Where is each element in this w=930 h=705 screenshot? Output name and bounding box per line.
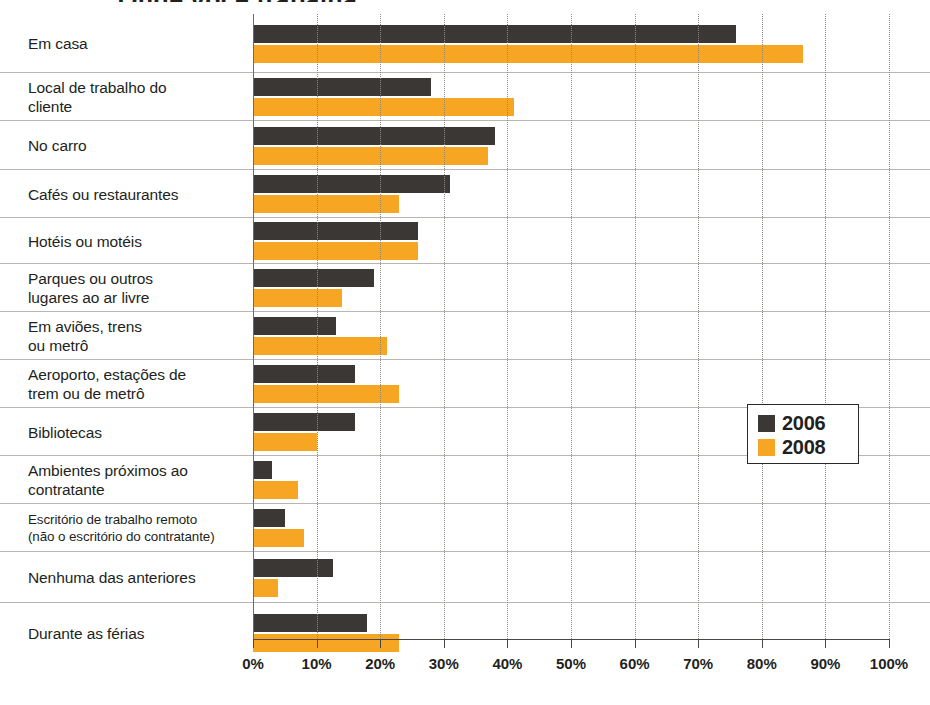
category-label: Parques ou outroslugares ao ar livre: [28, 269, 250, 307]
bar-group: [253, 504, 930, 551]
bar-2006: [253, 317, 336, 335]
bar-2006: [253, 509, 285, 527]
axis-tick: [571, 639, 572, 648]
axis-tick-label: 70%: [683, 655, 713, 672]
x-axis: 0%10%20%30%40%50%60%70%80%90%100%: [253, 639, 889, 640]
category-label: Em aviões, trensou metrô: [28, 317, 250, 355]
bar-2006: [253, 269, 374, 287]
chart-row: No carro: [0, 121, 930, 170]
legend-swatch-icon-2008: [758, 439, 775, 456]
axis-tick-label: 90%: [810, 655, 840, 672]
bar-2008: [253, 529, 304, 547]
axis-tick: [444, 639, 445, 648]
chart-row: Parques ou outroslugares ao ar livre: [0, 264, 930, 312]
chart-row: Hotéis ou motéis: [0, 218, 930, 264]
axis-tick: [507, 639, 508, 648]
category-label: Nenhuma das anteriores: [28, 568, 250, 587]
bar-2006: [253, 175, 450, 193]
category-label: Em casa: [28, 34, 250, 53]
bar-group: [253, 121, 930, 169]
axis-tick: [253, 639, 254, 648]
chart-row: Em aviões, trensou metrô: [0, 312, 930, 360]
category-label: Durante as férias: [28, 624, 250, 643]
axis-tick: [317, 639, 318, 648]
bar-2006: [253, 461, 272, 479]
bar-2006: [253, 78, 431, 96]
axis-tick: [698, 639, 699, 648]
bar-2008: [253, 195, 399, 213]
axis-tick-label: 40%: [492, 655, 522, 672]
axis-tick: [762, 639, 763, 648]
bar-2008: [253, 242, 418, 260]
bar-2008: [253, 579, 278, 597]
chart-row: Em casa: [0, 14, 930, 73]
bar-group: [253, 603, 930, 663]
axis-tick-label: 80%: [747, 655, 777, 672]
category-label: Cafés ou restaurantes: [28, 184, 250, 203]
chart-row: Local de trabalho docliente: [0, 73, 930, 121]
axis-tick-label: 50%: [556, 655, 586, 672]
chart-row: Durante as férias: [0, 603, 930, 663]
bar-group: [253, 552, 930, 602]
bar-group: [253, 312, 930, 359]
axis-tick-label: 10%: [302, 655, 332, 672]
chart-row: Aeroporto, estações detrem ou de metrô: [0, 360, 930, 408]
bar-2008: [253, 385, 399, 403]
bar-2008: [253, 634, 399, 652]
legend: 2006 2008: [747, 404, 859, 464]
plot-area: Em casaLocal de trabalho doclienteNo car…: [0, 14, 930, 639]
category-label: Hotéis ou motéis: [28, 231, 250, 250]
bar-2008: [253, 433, 317, 451]
category-label: Bibliotecas: [28, 422, 250, 441]
axis-tick: [825, 639, 826, 648]
bar-2006: [253, 222, 418, 240]
category-rows: Em casaLocal de trabalho doclienteNo car…: [0, 14, 930, 663]
legend-item-2006: 2006: [758, 411, 858, 435]
axis-tick: [635, 639, 636, 648]
bar-chart: Onde você trabalha Em casaLocal de traba…: [0, 0, 930, 705]
bar-group: [253, 264, 930, 311]
category-label: No carro: [28, 136, 250, 155]
chart-title-fragment: Onde você trabalha: [118, 0, 538, 2]
bar-2008: [253, 98, 514, 116]
bar-2008: [253, 289, 342, 307]
bar-group: [253, 14, 930, 72]
bar-2008: [253, 337, 387, 355]
bar-2008: [253, 147, 488, 165]
bar-2008: [253, 45, 803, 63]
category-label: Local de trabalho docliente: [28, 78, 250, 116]
bar-group: [253, 73, 930, 120]
bar-2006: [253, 25, 736, 43]
bar-2006: [253, 559, 333, 577]
bar-2008: [253, 481, 298, 499]
legend-label-2006: 2006: [782, 413, 825, 433]
category-label: Aeroporto, estações detrem ou de metrô: [28, 365, 250, 403]
axis-tick-label: 60%: [620, 655, 650, 672]
axis-tick-label: 100%: [870, 655, 908, 672]
bar-2006: [253, 614, 367, 632]
bar-2006: [253, 365, 355, 383]
chart-row: Nenhuma das anteriores: [0, 552, 930, 603]
bar-group: [253, 218, 930, 263]
bar-group: [253, 170, 930, 217]
axis-tick-label: 30%: [429, 655, 459, 672]
category-label: Escritório de trabalho remoto(não o escr…: [28, 511, 250, 545]
chart-row: Cafés ou restaurantes: [0, 170, 930, 218]
legend-item-2008: 2008: [758, 435, 858, 459]
legend-label-2008: 2008: [782, 437, 825, 457]
legend-swatch-icon-2006: [758, 415, 775, 432]
category-label: Ambientes próximos aocontratante: [28, 461, 250, 499]
axis-tick: [380, 639, 381, 648]
axis-tick-label: 20%: [365, 655, 395, 672]
bar-group: [253, 360, 930, 407]
chart-row: Escritório de trabalho remoto(não o escr…: [0, 504, 930, 552]
bar-2006: [253, 413, 355, 431]
axis-tick-label: 0%: [242, 655, 264, 672]
axis-tick: [889, 639, 890, 648]
bar-2006: [253, 127, 495, 145]
